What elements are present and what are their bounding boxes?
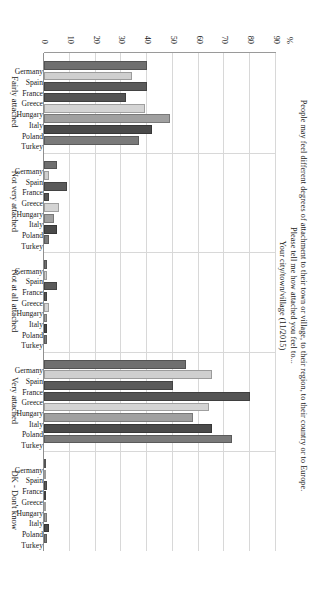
category-label-spain-3: Spain xyxy=(26,377,43,386)
category-label-france-0: France xyxy=(22,89,43,98)
y-tick-30: 30 xyxy=(117,36,126,44)
category-label-greece-2: Greece xyxy=(22,299,44,308)
category-label-hungary-1: Hungary xyxy=(16,210,43,219)
bar-not-at-all-attached-spain xyxy=(44,271,47,280)
bar-not-at-all-attached-france xyxy=(44,282,57,291)
y-tick-50: 50 xyxy=(168,36,177,44)
category-label-france-3: France xyxy=(22,388,43,397)
bar-fairly-attached-germany xyxy=(44,61,147,70)
y-tick-40: 40 xyxy=(143,36,152,44)
category-label-greece-4: Greece xyxy=(22,498,44,507)
group-label-4: DK - Don't know xyxy=(10,470,20,530)
group-label-3: Very attached xyxy=(10,377,20,424)
bar-dk-don-t-know-germany xyxy=(44,459,46,468)
bar-fairly-attached-turkey xyxy=(44,136,139,145)
category-label-turkey-4: Turkey xyxy=(21,541,43,550)
category-label-turkey-2: Turkey xyxy=(21,341,43,350)
category-label-italy-1: Italy xyxy=(29,220,43,229)
group-labels: Fairly attachedNot very attachedNot at a… xyxy=(4,52,20,550)
bar-very-attached-poland xyxy=(44,424,212,433)
y-tick-10: 10 xyxy=(65,36,74,44)
category-label-spain-0: Spain xyxy=(26,78,43,87)
category-label-spain-2: Spain xyxy=(26,277,43,286)
chart-title: People may feel different degrees of att… xyxy=(277,0,308,591)
category-label-spain-1: Spain xyxy=(26,178,43,187)
category-label-turkey-0: Turkey xyxy=(21,142,43,151)
bar-not-very-attached-poland xyxy=(44,225,57,234)
y-tick-80: 80 xyxy=(246,36,255,44)
group-label-1: Not very attached xyxy=(10,171,20,232)
group-label-0: Fairly attached xyxy=(10,76,20,127)
y-axis-tick-labels: 0102030405060708090% xyxy=(44,0,276,50)
plot-area xyxy=(44,52,276,551)
bar-very-attached-spain xyxy=(44,370,212,379)
bar-very-attached-turkey xyxy=(44,435,232,444)
y-tick-70: 70 xyxy=(220,36,229,44)
category-label-poland-3: Poland xyxy=(22,430,43,439)
bar-fairly-attached-greece xyxy=(44,93,126,102)
bar-dk-don-t-know-italy xyxy=(44,513,47,522)
bar-fairly-attached-france xyxy=(44,82,147,91)
bar-not-at-all-attached-italy xyxy=(44,314,47,323)
chart-root: People may feel different degrees of att… xyxy=(0,0,312,591)
category-label-greece-0: Greece xyxy=(22,99,44,108)
category-label-turkey-3: Turkey xyxy=(21,441,43,450)
y-tick-60: 60 xyxy=(194,36,203,44)
bar-dk-don-t-know-france xyxy=(44,481,47,490)
category-label-poland-1: Poland xyxy=(22,231,43,240)
bar-not-very-attached-germany xyxy=(44,161,57,170)
bar-not-at-all-attached-greece xyxy=(44,292,47,301)
category-label-italy-3: Italy xyxy=(29,420,43,429)
category-label-italy-2: Italy xyxy=(29,320,43,329)
category-label-hungary-2: Hungary xyxy=(16,309,43,318)
bar-very-attached-hungary xyxy=(44,403,209,412)
category-label-poland-0: Poland xyxy=(22,132,43,141)
bar-very-attached-italy xyxy=(44,413,194,422)
bar-not-very-attached-italy xyxy=(44,214,54,223)
bar-fairly-attached-hungary xyxy=(44,104,145,113)
bar-not-very-attached-spain xyxy=(44,171,49,180)
category-label-spain-4: Spain xyxy=(26,476,43,485)
bar-dk-don-t-know-hungary xyxy=(44,502,46,511)
bar-not-very-attached-greece xyxy=(44,193,49,202)
bar-not-very-attached-turkey xyxy=(44,235,49,244)
bar-not-at-all-attached-turkey xyxy=(44,335,47,344)
chart-title-line-1: People may feel different degrees of att… xyxy=(298,0,308,591)
category-label-hungary-3: Hungary xyxy=(16,409,43,418)
y-axis-unit-label: % xyxy=(285,37,294,44)
rotated-chart-frame: People may feel different degrees of att… xyxy=(0,0,312,591)
bar-not-at-all-attached-poland xyxy=(44,324,47,333)
category-label-hungary-0: Hungary xyxy=(16,110,43,119)
bar-very-attached-france xyxy=(44,381,173,390)
bar-not-at-all-attached-germany xyxy=(44,260,47,269)
category-label-france-4: France xyxy=(22,487,43,496)
category-label-hungary-4: Hungary xyxy=(16,509,43,518)
bar-very-attached-germany xyxy=(44,360,186,369)
bar-very-attached-greece xyxy=(44,392,250,401)
chart-title-line-3: Your city/town/village (11/2015) xyxy=(277,0,287,591)
bar-series-container xyxy=(44,53,276,551)
bar-fairly-attached-poland xyxy=(44,125,152,134)
bar-fairly-attached-spain xyxy=(44,72,132,81)
bar-dk-don-t-know-spain xyxy=(44,470,46,479)
bar-not-at-all-attached-hungary xyxy=(44,303,49,312)
category-label-turkey-1: Turkey xyxy=(21,242,43,251)
bar-dk-don-t-know-poland xyxy=(44,524,49,533)
category-label-italy-0: Italy xyxy=(29,121,43,130)
bar-dk-don-t-know-turkey xyxy=(44,534,47,543)
category-label-greece-3: Greece xyxy=(22,398,44,407)
y-tick-90: 90 xyxy=(272,36,281,44)
y-tick-20: 20 xyxy=(91,36,100,44)
category-label-greece-1: Greece xyxy=(22,199,44,208)
category-label-france-1: France xyxy=(22,188,43,197)
category-label-france-2: France xyxy=(22,288,43,297)
bar-not-very-attached-france xyxy=(44,182,67,191)
y-tick-0: 0 xyxy=(40,40,49,44)
group-label-2: Not at all attached xyxy=(10,270,20,333)
category-label-italy-4: Italy xyxy=(29,519,43,528)
category-label-poland-4: Poland xyxy=(22,530,43,539)
bar-fairly-attached-italy xyxy=(44,114,170,123)
category-label-poland-2: Poland xyxy=(22,331,43,340)
bar-not-very-attached-hungary xyxy=(44,203,59,212)
bar-dk-don-t-know-greece xyxy=(44,491,46,500)
